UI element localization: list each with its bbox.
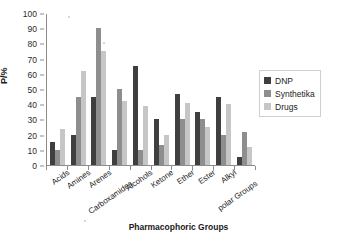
legend-label: DNP (275, 76, 293, 86)
x-axis-labels: AcidsAminesArenesCarboxamidesAlcoholsKet… (46, 168, 255, 220)
y-tick-label: 80 (28, 39, 37, 49)
bar-group (193, 14, 214, 165)
x-axis-title: Pharmacophoric Groups (0, 222, 357, 232)
bar (185, 103, 190, 165)
x-tick-label: Alkyl (219, 168, 238, 185)
y-tick-mark (40, 120, 44, 121)
bar-groups (47, 14, 255, 165)
y-tick-label: 20 (28, 131, 37, 141)
bar (247, 147, 252, 165)
legend-swatch-icon (264, 103, 271, 110)
bar (81, 71, 86, 165)
bar-group (89, 14, 110, 165)
bar (60, 129, 65, 165)
legend-label: Synthetika (275, 89, 315, 99)
y-tick-mark (40, 29, 44, 30)
y-tick-mark (40, 166, 44, 167)
bar-group (234, 14, 255, 165)
bar-group (213, 14, 234, 165)
y-tick-label: 40 (28, 100, 37, 110)
y-tick-mark (40, 59, 44, 60)
y-tick-label: 50 (28, 85, 37, 95)
y-tick-label: 90 (28, 24, 37, 34)
bar (122, 101, 127, 165)
y-tick-mark (40, 44, 44, 45)
bar (143, 106, 148, 165)
bar-group (151, 14, 172, 165)
legend-swatch-icon (264, 77, 271, 84)
y-tick-label: 100 (23, 9, 37, 19)
x-tick-label: Ketone (150, 168, 176, 190)
y-tick-mark (40, 135, 44, 136)
y-tick-mark (40, 90, 44, 91)
y-tick-label: 60 (28, 70, 37, 80)
x-tick-label: Ester (197, 168, 217, 186)
legend: DNPSynthetikaDrugs (259, 70, 321, 117)
y-tick-label: 70 (28, 55, 37, 65)
bar (226, 104, 231, 165)
legend-swatch-icon (264, 90, 271, 97)
y-tick-mark (40, 14, 44, 15)
y-tick-label: 0 (32, 161, 37, 171)
y-tick-mark (40, 150, 44, 151)
bar-group (172, 14, 193, 165)
y-tick-label: 10 (28, 146, 37, 156)
x-tick-label: Ether (176, 168, 197, 186)
bar (205, 127, 210, 165)
legend-label: Drugs (275, 102, 298, 112)
x-tick-label: Arenes (87, 168, 113, 190)
bar-group (130, 14, 151, 165)
bar-group (47, 14, 68, 165)
legend-item: DNP (264, 74, 315, 87)
y-axis-title: P/% (0, 67, 9, 84)
x-tick-mark (255, 166, 256, 170)
bar-group (109, 14, 130, 165)
bar-chart: 0102030405060708090100 P/% AcidsAminesAr… (0, 0, 357, 243)
y-tick-label: 30 (28, 115, 37, 125)
legend-item: Drugs (264, 100, 315, 113)
y-axis: 0102030405060708090100 (0, 14, 44, 166)
bar (101, 51, 106, 165)
plot-area (46, 14, 255, 166)
y-tick-mark (40, 74, 44, 75)
legend-item: Synthetika (264, 87, 315, 100)
bar (164, 135, 169, 165)
x-tick-label: polar Groups (216, 179, 259, 213)
y-tick-mark (40, 105, 44, 106)
bar-group (68, 14, 89, 165)
